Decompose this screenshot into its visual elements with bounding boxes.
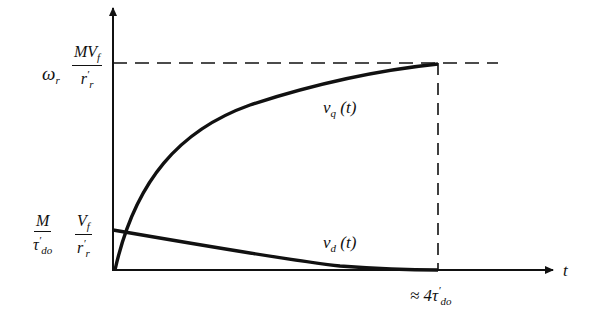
vd-curve [113, 230, 438, 270]
y-label-upper-fraction: MVf r′r [72, 44, 102, 90]
x-axis-label: t [563, 262, 568, 279]
y-label-upper-omega: ωr [42, 64, 60, 86]
vq-label: vq (t) [323, 99, 356, 119]
x-tick-label: ≈ 4τ′do [410, 285, 452, 307]
y-label-lower-fraction-1: M τ′do [33, 213, 52, 256]
vd-label: vd (t) [323, 234, 356, 254]
y-label-lower-fraction-2: Vf r′r [75, 213, 92, 259]
